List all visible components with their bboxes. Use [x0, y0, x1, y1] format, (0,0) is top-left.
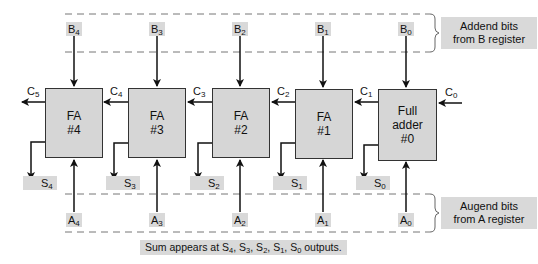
c5-label: C5 — [27, 85, 39, 97]
adder-label: FA — [67, 109, 82, 123]
s1-label: S1 — [273, 176, 307, 190]
addend-note: Addend bits from B register — [441, 17, 537, 49]
augend-note-line1: Augend bits — [446, 200, 532, 213]
sum-note: Sum appears at S4, S3, S2, S1, S0 output… — [140, 240, 347, 255]
adder-number: #4 — [67, 123, 80, 137]
full-adder-0: Full adder #0 — [378, 89, 437, 161]
b2-label: B2 — [232, 22, 248, 36]
adder-number: #1 — [317, 124, 330, 138]
c1-label: C1 — [360, 85, 372, 97]
adder-label: Full — [398, 104, 417, 118]
c0-label: C0 — [445, 86, 457, 98]
s4-label: S4 — [23, 176, 57, 190]
b0-label: B0 — [398, 22, 414, 36]
full-adder-1: FA #1 — [295, 89, 353, 159]
a2-label: A2 — [232, 213, 248, 227]
adder-label: FA — [317, 110, 332, 124]
augend-note: Augend bits from A register — [441, 197, 537, 229]
c2-label: C2 — [277, 85, 289, 97]
adder-label: FA — [150, 109, 165, 123]
full-adder-2: FA #2 — [212, 88, 270, 158]
a0-label: A0 — [398, 213, 414, 227]
full-adder-3: FA #3 — [128, 88, 186, 158]
adder-number: #3 — [150, 123, 163, 137]
b1-label: B1 — [315, 22, 331, 36]
a4-label: A4 — [66, 213, 82, 227]
adder-number: #0 — [401, 132, 414, 146]
a3-label: A3 — [149, 213, 165, 227]
addend-note-line1: Addend bits — [446, 20, 532, 33]
b4-label: B4 — [66, 22, 82, 36]
adder-label: FA — [234, 109, 249, 123]
augend-note-line2: from A register — [446, 213, 532, 226]
s3-label: S3 — [106, 176, 140, 190]
s2-label: S2 — [190, 176, 224, 190]
b3-label: B3 — [149, 22, 165, 36]
adder-label-2: adder — [392, 118, 423, 132]
s0-label: S0 — [356, 176, 390, 190]
adder-number: #2 — [234, 123, 247, 137]
a1-label: A1 — [315, 213, 331, 227]
c3-label: C3 — [193, 85, 205, 97]
c4-label: C4 — [110, 85, 122, 97]
addend-note-line2: from B register — [446, 33, 532, 46]
full-adder-4: FA #4 — [45, 88, 103, 158]
